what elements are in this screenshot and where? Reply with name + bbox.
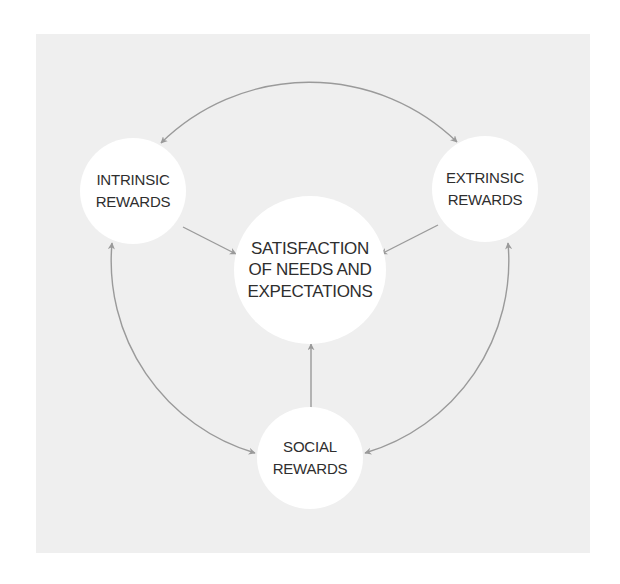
node-label-line: REWARDS: [96, 191, 171, 213]
node-intrinsic-rewards: INTRINSIC REWARDS: [80, 138, 186, 244]
node-label-line: EXTRINSIC: [446, 167, 524, 189]
arrow-intrinsic-to-center: [183, 227, 236, 254]
node-social-rewards: SOCIAL REWARDS: [257, 407, 363, 509]
node-satisfaction-of-needs: SATISFACTION OF NEEDS AND EXPECTATIONS: [234, 196, 386, 344]
node-label-line: SATISFACTION: [251, 238, 369, 260]
node-label-line: EXPECTATIONS: [247, 281, 372, 303]
node-label-line: REWARDS: [273, 458, 348, 480]
arrow-extrinsic-to-center: [381, 225, 438, 254]
node-label-line: INTRINSIC: [96, 169, 169, 191]
arc-extrinsic-social: [365, 243, 509, 453]
node-extrinsic-rewards: EXTRINSIC REWARDS: [432, 136, 538, 242]
node-label-line: OF NEEDS AND: [249, 259, 372, 281]
node-label-line: REWARDS: [448, 189, 523, 211]
arc-intrinsic-extrinsic: [161, 82, 457, 143]
node-label-line: SOCIAL: [283, 436, 337, 458]
